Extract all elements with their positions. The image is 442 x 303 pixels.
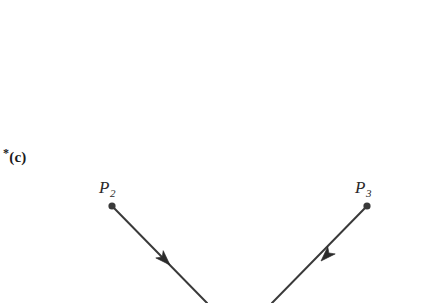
edge-line-to-p2 — [112, 206, 207, 303]
point-label-p3: P3 — [355, 178, 371, 199]
point-marker-p3 — [363, 202, 370, 209]
figure-canvas: *(c) P2 P3 — [0, 0, 442, 303]
part-label: *(c) — [3, 146, 26, 166]
edge-line-to-p3 — [272, 206, 367, 303]
point-label-p2-subscript: 2 — [110, 187, 116, 199]
point-label-p2-base: P — [99, 178, 109, 197]
arrowhead-to-p3 — [317, 247, 335, 265]
point-marker-p2 — [108, 202, 115, 209]
figure-diagram — [0, 0, 442, 303]
part-label-text: (c) — [9, 149, 26, 165]
point-label-p3-subscript: 3 — [366, 187, 372, 199]
point-label-p2: P2 — [99, 178, 115, 199]
point-label-p3-base: P — [355, 178, 365, 197]
